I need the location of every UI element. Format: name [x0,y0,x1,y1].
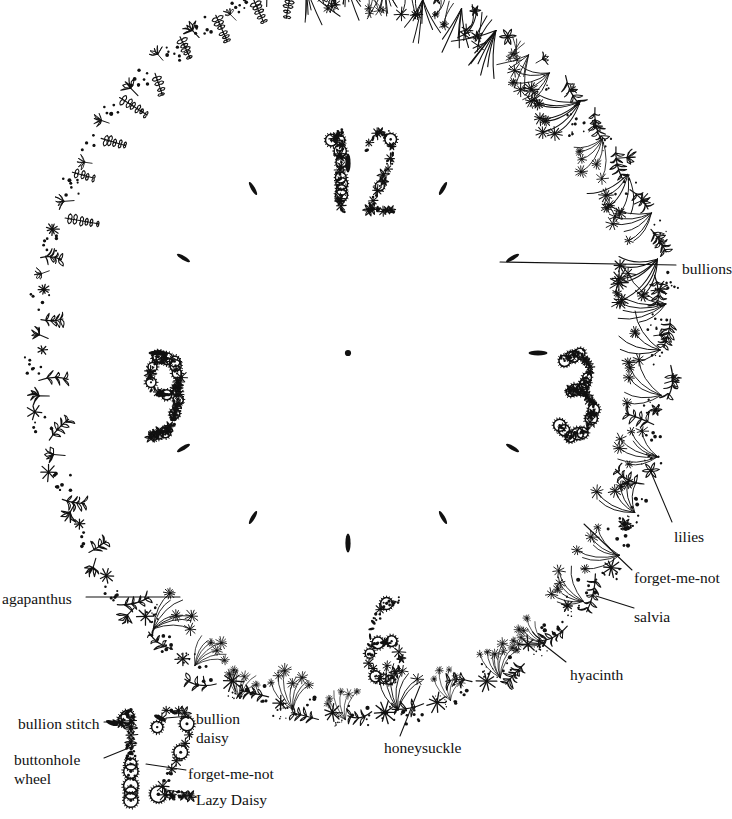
wheel-spoke [335,165,337,166]
wheel-centre [369,652,371,654]
bullion-body [364,148,369,153]
wheel-spoke [150,362,151,363]
starburst-daisy [287,678,298,690]
seed-knot [165,644,167,646]
seed-knot [440,695,441,696]
wheel-spoke [192,728,193,729]
leaf-sprig [655,317,680,351]
seed-cloud [645,431,662,442]
starburst-daisy [206,638,216,648]
starburst-daisy [613,433,626,447]
sprig-leaf [592,595,599,601]
wheel-spoke [580,387,582,388]
hour-marker-4 [505,443,520,454]
wheel-spoke [125,765,126,766]
sprig-leaf [610,153,616,157]
seed-cloud [30,293,51,311]
wheel-spoke [347,198,348,199]
wheel-spoke [559,364,560,365]
wheel-spoke [395,144,396,145]
seed-knot [133,750,136,753]
seed-knot [637,514,640,517]
starburst-daisy [612,289,621,297]
starburst-daisy [75,519,85,529]
wheel-spoke [347,192,348,193]
seed-knot [649,401,651,403]
wheel-spoke [567,359,569,360]
seed-knot [169,772,171,774]
seed-knot [654,317,657,320]
wheel-centre [339,139,341,141]
wheel-spoke [125,797,126,798]
seed-knot [46,249,49,252]
label-inset-bullion-stitch: bullion stitch [18,715,99,734]
seed-knot [41,301,45,305]
buttonhole-wheel [144,376,158,389]
seed-knot [166,46,168,48]
starburst-daisy [427,692,446,712]
sprig-leaf [58,260,65,266]
seed-knot [653,435,657,439]
lily-stem [85,162,92,163]
hour-marker-11 [248,181,259,196]
seed-knot [540,626,543,629]
wheel-spoke [566,432,567,433]
seed-knot [105,112,108,115]
seed-knot [387,159,389,161]
wheel-spoke [193,721,194,722]
seed-cloud [607,526,631,548]
lily-stem [158,54,163,61]
starburst-ray [495,654,501,655]
seed-knot [169,643,173,647]
sprig-leaf [60,319,64,328]
seed-knot [374,612,377,615]
seed-knot [82,531,85,534]
seed-knot [77,193,79,195]
wheel-spoke [344,172,345,173]
wheel-spoke [134,714,135,715]
wheel-spoke [148,364,149,365]
seed-knot [391,163,393,165]
bullion-body [368,627,375,631]
spike-floret [287,16,291,19]
label-salvia: salvia [634,608,670,627]
wheel-spoke [127,778,128,779]
daisy-petal [434,0,437,4]
bullion-body [438,510,449,525]
wheel-spoke [160,363,161,364]
wheel-spoke [568,435,569,436]
seed-knot [70,186,73,189]
wheel-spoke [149,790,151,791]
sprig-leaf [76,503,83,511]
wheel-spoke [119,724,120,725]
seed-knot [67,178,71,182]
seed-knot [60,483,64,487]
wheel-spoke [590,380,591,381]
spike-floret [283,4,288,8]
wheel-spoke [569,361,570,362]
wheel-spoke [333,153,334,154]
wheel-spoke [164,389,165,390]
wheel-spoke [164,362,165,363]
seed-knot [398,596,400,598]
grass-blade [345,0,359,21]
label-inset-lazy-daisy: Lazy Daisy [196,791,267,810]
label-inset-forget-me-not: forget-me-not [188,765,274,784]
wheel-spoke [338,189,339,190]
seed-knot [676,286,679,289]
wheel-centre [558,424,561,427]
seed-knot [541,655,543,657]
seed-knot [103,106,106,109]
wheel-spoke [172,407,173,409]
starburst-daisy [394,7,409,21]
seed-knot [390,682,393,685]
seed-knot [246,689,250,693]
wheel-spoke [560,435,561,436]
wheel-spoke [579,439,580,440]
seed-knot [313,696,317,700]
seed-knot [541,635,544,638]
seed-knot [92,144,95,147]
seed-knot [230,2,233,5]
wheel-spoke [127,769,128,771]
seed-knot [195,683,199,687]
